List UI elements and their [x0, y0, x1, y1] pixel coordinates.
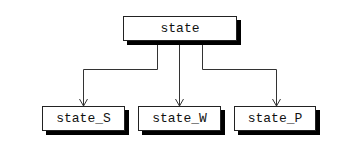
- node-state-s-label: state_S: [56, 111, 111, 126]
- edge-state-to-state-p: [203, 41, 277, 106]
- node-state: state: [123, 16, 237, 41]
- node-state-p: state_P: [234, 106, 316, 131]
- node-state-label: state: [160, 21, 199, 36]
- node-state-w-label: state_W: [152, 111, 207, 126]
- node-state-s: state_S: [42, 106, 125, 131]
- node-state-p-label: state_P: [248, 111, 303, 126]
- node-state-w: state_W: [138, 106, 221, 131]
- edge-state-to-state-s: [84, 41, 158, 106]
